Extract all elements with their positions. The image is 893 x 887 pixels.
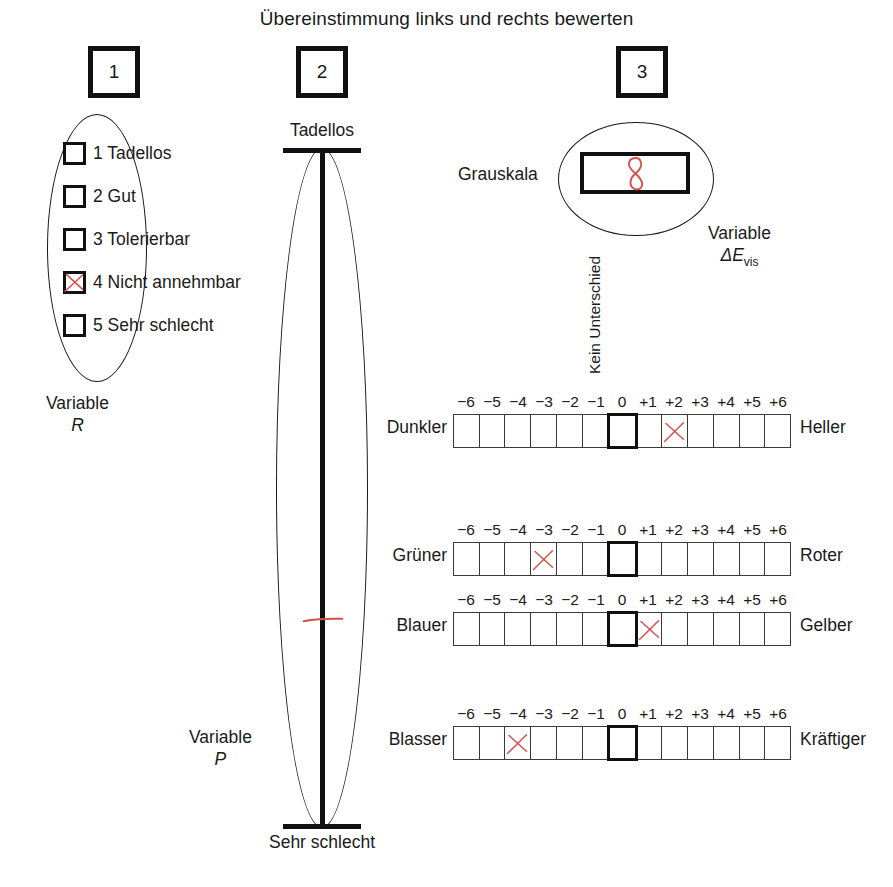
scale-1-tick-7: +1 bbox=[635, 393, 661, 411]
scale-4-cell-+1[interactable] bbox=[637, 726, 663, 760]
scale-2-cell-+4[interactable] bbox=[714, 542, 740, 576]
scale-3-cell-−6[interactable] bbox=[454, 612, 480, 646]
option-number-1: 1 bbox=[93, 143, 103, 163]
scale-1-cell-−1[interactable] bbox=[583, 414, 609, 448]
scale-1-cell-−3[interactable] bbox=[531, 414, 557, 448]
variable-delta-e-caption: Variable ΔEvis bbox=[708, 222, 771, 270]
scale-1-tick-0: −6 bbox=[453, 393, 479, 411]
scale-4-tick-3: −3 bbox=[531, 705, 557, 723]
option-row-1[interactable]: 1 Tadellos bbox=[63, 140, 241, 166]
scale-4-cell-0[interactable] bbox=[607, 725, 638, 761]
scale-3-cell-0[interactable] bbox=[607, 611, 638, 647]
scale-1-left-label: Dunkler bbox=[387, 417, 447, 437]
scale-4-cell-−6[interactable] bbox=[454, 726, 480, 760]
scale-1-cell-+6[interactable] bbox=[765, 414, 791, 448]
scale-4-right-label: Kräftiger bbox=[800, 729, 866, 750]
option-number-2: 2 bbox=[93, 186, 103, 206]
scale-4-tick-6: 0 bbox=[609, 705, 635, 723]
scale-1-cell-+4[interactable] bbox=[714, 414, 740, 448]
scale-4-cell-−3[interactable] bbox=[531, 726, 557, 760]
scale-2-tick-7: +1 bbox=[635, 521, 661, 539]
scale-2-cell-−6[interactable] bbox=[454, 542, 480, 576]
scale-3-cell-+1[interactable] bbox=[637, 612, 663, 646]
scale-3-cell-−5[interactable] bbox=[480, 612, 506, 646]
scale-2-cell-−5[interactable] bbox=[480, 542, 506, 576]
scale-2-tick-1: −5 bbox=[479, 521, 505, 539]
scale-3-tick-1: −5 bbox=[479, 591, 505, 609]
grauskala-label: Grauskala bbox=[458, 164, 538, 185]
scale-4-tick-5: −1 bbox=[583, 705, 609, 723]
option-row-5[interactable]: 5 Sehr schlecht bbox=[63, 312, 241, 338]
option-label-4: 4 Nicht annehmbar bbox=[93, 272, 241, 293]
option-row-2[interactable]: 2 Gut bbox=[63, 183, 241, 209]
scale-4-cell-+3[interactable] bbox=[688, 726, 714, 760]
scale-3-tick-4: −2 bbox=[557, 591, 583, 609]
scale-3-cell-−4[interactable] bbox=[505, 612, 531, 646]
scale-1-cell-−5[interactable] bbox=[480, 414, 506, 448]
variable-delta-e-symbol-main: ΔE bbox=[720, 245, 743, 265]
scale-2-tick-12: +6 bbox=[765, 521, 791, 539]
scale-4-cell-−4[interactable] bbox=[505, 726, 531, 760]
scale-1-cell-+2[interactable] bbox=[662, 414, 688, 448]
grauskala-handwritten-value-icon bbox=[596, 152, 674, 194]
scale-2-cell-−2[interactable] bbox=[557, 542, 583, 576]
rating-scale-dunkler-heller: −6−5−4−3−2−10+1+2+3+4+5+6 Dunkler Heller bbox=[0, 393, 893, 453]
scale-2-cell-+1[interactable] bbox=[637, 542, 663, 576]
checkbox-2[interactable] bbox=[63, 185, 86, 208]
scale-1-cell-−6[interactable] bbox=[454, 414, 480, 448]
scale-1-grid[interactable] bbox=[453, 414, 791, 448]
scale-3-grid[interactable] bbox=[453, 612, 791, 646]
scale-4-tick-2: −4 bbox=[505, 705, 531, 723]
option-label-2: 2 Gut bbox=[93, 186, 136, 207]
scale-2-cell-0[interactable] bbox=[607, 541, 638, 577]
scale-3-right-label: Gelber bbox=[800, 615, 853, 636]
scale-2-cell-−3[interactable] bbox=[531, 542, 557, 576]
option-number-3: 3 bbox=[93, 229, 103, 249]
option-row-4[interactable]: 4 Nicht annehmbar bbox=[63, 269, 241, 295]
checkbox-4[interactable] bbox=[63, 271, 86, 294]
option-label-1: 1 Tadellos bbox=[93, 143, 172, 164]
scale-1-tick-9: +3 bbox=[687, 393, 713, 411]
option-text-4: Nicht annehmbar bbox=[108, 272, 241, 292]
scale-2-cell-−1[interactable] bbox=[583, 542, 609, 576]
scale-1-tick-10: +4 bbox=[713, 393, 739, 411]
assessment-form-sheet: Übereinstimmung links und rechts bewerte… bbox=[0, 0, 893, 887]
scale-3-cell-+5[interactable] bbox=[740, 612, 766, 646]
scale-3-cell-+2[interactable] bbox=[662, 612, 688, 646]
scale-4-cell-+4[interactable] bbox=[714, 726, 740, 760]
scale-1-cell-0[interactable] bbox=[607, 413, 638, 449]
scale-4-cell-+2[interactable] bbox=[662, 726, 688, 760]
scale-1-cell-−4[interactable] bbox=[505, 414, 531, 448]
scale-4-cell-−2[interactable] bbox=[557, 726, 583, 760]
scale-1-cell-−2[interactable] bbox=[557, 414, 583, 448]
scale-4-cell-+5[interactable] bbox=[740, 726, 766, 760]
scale-2-grid[interactable] bbox=[453, 542, 791, 576]
scale-4-left-label: Blasser bbox=[389, 729, 447, 749]
scale-3-cell-−2[interactable] bbox=[557, 612, 583, 646]
scale-3-cell-+6[interactable] bbox=[765, 612, 791, 646]
scale-2-cell-+3[interactable] bbox=[688, 542, 714, 576]
option-row-3[interactable]: 3 Tolerierbar bbox=[63, 226, 241, 252]
scale-3-cell-−3[interactable] bbox=[531, 612, 557, 646]
scale-3-cell-+4[interactable] bbox=[714, 612, 740, 646]
scale-3-tick-6: 0 bbox=[609, 591, 635, 609]
scale-4-cell-+6[interactable] bbox=[765, 726, 791, 760]
scale-3-cell-+3[interactable] bbox=[688, 612, 714, 646]
scale-4-cell-−5[interactable] bbox=[480, 726, 506, 760]
scale-1-cell-+1[interactable] bbox=[637, 414, 663, 448]
scale-1-cell-+5[interactable] bbox=[740, 414, 766, 448]
checkbox-5[interactable] bbox=[63, 314, 86, 337]
scale-4-grid[interactable] bbox=[453, 726, 791, 760]
variable-p-top-tick bbox=[283, 148, 361, 153]
scale-4-tick-4: −2 bbox=[557, 705, 583, 723]
checkbox-3[interactable] bbox=[63, 228, 86, 251]
scale-2-cell-+5[interactable] bbox=[740, 542, 766, 576]
checkbox-1[interactable] bbox=[63, 142, 86, 165]
scale-4-cell-−1[interactable] bbox=[583, 726, 609, 760]
red-x-mark-icon bbox=[663, 416, 686, 446]
scale-1-cell-+3[interactable] bbox=[688, 414, 714, 448]
scale-2-cell-+6[interactable] bbox=[765, 542, 791, 576]
scale-2-cell-−4[interactable] bbox=[505, 542, 531, 576]
scale-3-cell-−1[interactable] bbox=[583, 612, 609, 646]
scale-2-cell-+2[interactable] bbox=[662, 542, 688, 576]
